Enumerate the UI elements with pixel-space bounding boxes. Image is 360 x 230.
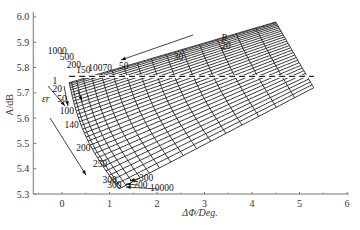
x-tick-label: 6 xyxy=(345,198,350,209)
x-tick-label: 0 xyxy=(60,198,65,209)
curve-label: 20 xyxy=(53,84,63,94)
curve-label: 70 xyxy=(102,63,112,73)
curve-label: 1000 xyxy=(48,46,67,56)
x-axis-title: ΔΦ/Deg. xyxy=(181,207,217,218)
y-tick-label: 5.5 xyxy=(17,138,30,149)
constant-er-curve xyxy=(116,85,313,185)
curve-label: 250 xyxy=(93,159,108,169)
curve-label: 140 xyxy=(64,120,79,130)
curve-label: 30 xyxy=(174,52,184,62)
y-tick-label: 5.9 xyxy=(17,37,30,48)
curve-label: 20 xyxy=(221,41,231,51)
constant-er-curve xyxy=(109,79,309,175)
arrow-head-icon xyxy=(126,186,131,189)
x-tick-label: 1 xyxy=(107,198,112,209)
y-tick-label: 5.4 xyxy=(17,163,30,174)
y-tick-label: 5.7 xyxy=(17,87,30,98)
constant-er-curve xyxy=(112,82,310,180)
x-tick-label: 2 xyxy=(155,198,160,209)
arrow-head-icon xyxy=(82,170,86,175)
y-axis-title: A/dB xyxy=(4,94,15,116)
curve-label: 300 xyxy=(107,180,122,190)
arrow-head-icon xyxy=(79,96,82,101)
curve-label: εr xyxy=(42,94,50,104)
curve-label: 300 xyxy=(139,173,154,183)
y-tick-label: 5.8 xyxy=(17,62,30,73)
y-tick-label: 5.3 xyxy=(17,189,30,200)
y-tick-label: 6.0 xyxy=(17,11,30,22)
curve-label: 100 xyxy=(60,106,75,116)
arrow-head-icon xyxy=(121,57,126,60)
curve-label: 200 xyxy=(76,143,91,153)
constant-er-curve xyxy=(86,55,295,137)
nomogram-chart: 01234565.35.45.55.65.75.85.96.0 R2030507… xyxy=(0,0,360,230)
x-tick-label: 4 xyxy=(250,198,255,209)
x-tick-label: 5 xyxy=(297,198,302,209)
y-tick-label: 5.6 xyxy=(17,113,30,124)
curve-label: 50 xyxy=(119,61,129,71)
